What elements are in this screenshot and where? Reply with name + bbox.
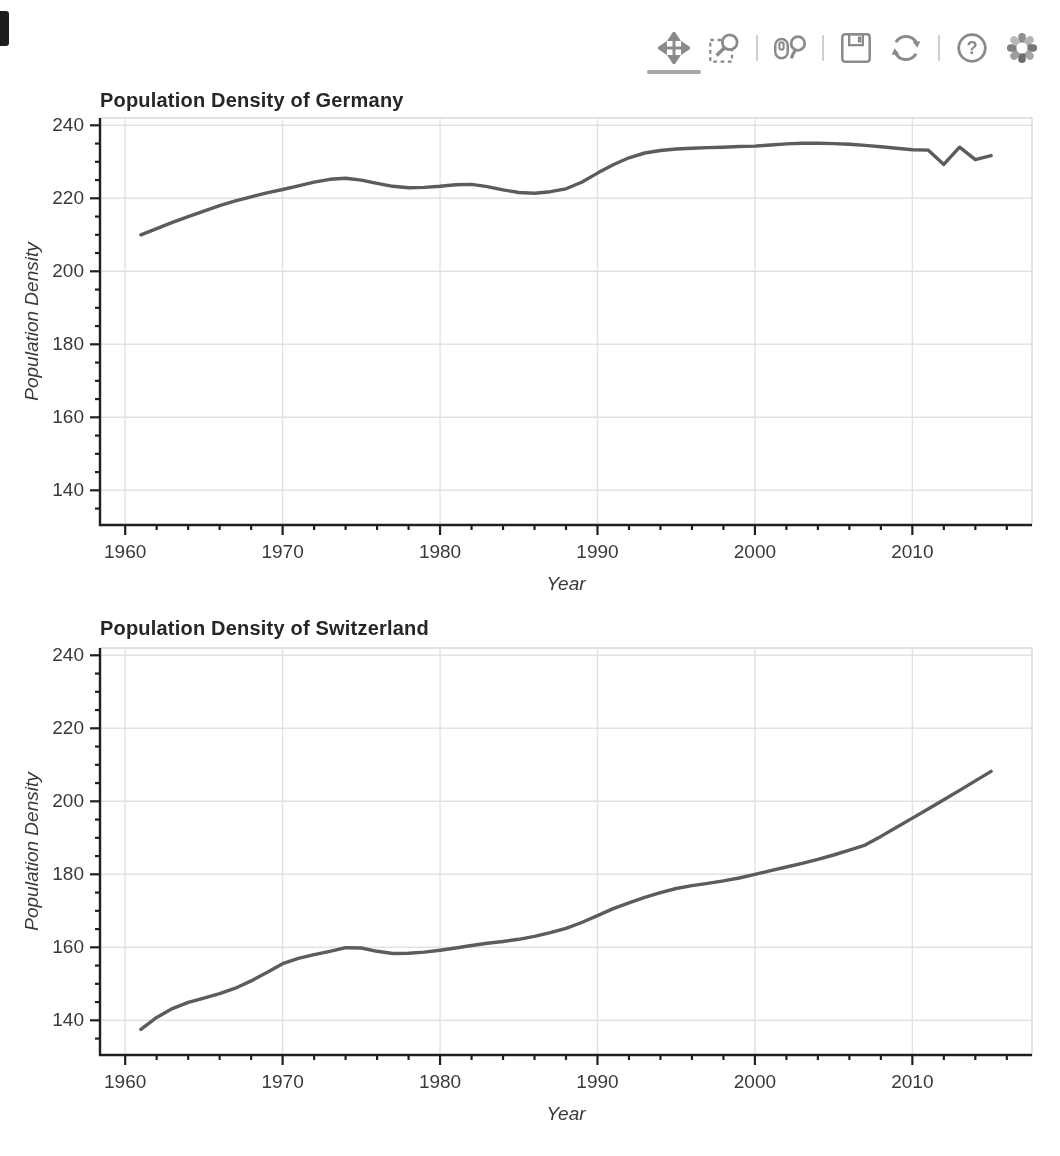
- save-icon: [840, 32, 872, 64]
- help-glyph: ?: [966, 37, 977, 58]
- y-tick-label: 200: [52, 260, 84, 281]
- x-tick-label: 1980: [419, 1071, 461, 1092]
- pan-tool-button[interactable]: [656, 28, 692, 68]
- x-tick-label: 1970: [261, 1071, 303, 1092]
- x-axis-label: Year: [546, 1103, 586, 1124]
- x-tick-label: 1990: [576, 541, 618, 562]
- x-tick-label: 1970: [261, 541, 303, 562]
- y-tick-label: 180: [52, 863, 84, 884]
- y-tick-label: 180: [52, 333, 84, 354]
- toolbar-separator: [822, 35, 824, 61]
- y-tick-label: 200: [52, 790, 84, 811]
- x-tick-label: 1960: [104, 541, 146, 562]
- y-tick-label: 160: [52, 406, 84, 427]
- y-tick-label: 140: [52, 479, 84, 500]
- bokeh-logo-icon: [1005, 31, 1039, 65]
- bokeh-logo[interactable]: [1004, 28, 1040, 68]
- reset-tool-button[interactable]: [888, 28, 924, 68]
- x-tick-label: 2000: [734, 541, 776, 562]
- y-axis-label: Population Density: [21, 771, 42, 931]
- wheel-zoom-icon: [773, 32, 807, 64]
- germany-chart-title: Population Density of Germany: [100, 89, 404, 112]
- y-axis-label: Population Density: [21, 241, 42, 401]
- bokeh-toolbar: ?: [656, 24, 1040, 72]
- x-tick-label: 2010: [891, 541, 933, 562]
- germany-population-density-line: [141, 143, 991, 235]
- switzerland-plot-canvas[interactable]: 1960197019801990200020101401601802002202…: [0, 645, 1060, 1125]
- x-tick-label: 1960: [104, 1071, 146, 1092]
- y-tick-label: 240: [52, 115, 84, 135]
- reset-icon: [890, 32, 922, 64]
- y-tick-label: 220: [52, 187, 84, 208]
- x-tick-label: 2010: [891, 1071, 933, 1092]
- y-tick-label: 240: [52, 645, 84, 665]
- y-tick-label: 140: [52, 1009, 84, 1030]
- y-tick-label: 220: [52, 717, 84, 738]
- wheel-zoom-tool-button[interactable]: [772, 28, 808, 68]
- x-axis-label: Year: [546, 573, 586, 594]
- germany-plot-canvas[interactable]: 1960197019801990200020101401601802002202…: [0, 115, 1060, 595]
- save-tool-button[interactable]: [838, 28, 874, 68]
- x-tick-label: 1990: [576, 1071, 618, 1092]
- bokeh-figure-page: ? Population Density of Germany 196: [0, 0, 1060, 1156]
- pan-icon: [658, 32, 690, 64]
- box-zoom-tool-button[interactable]: [706, 28, 742, 68]
- box-zoom-icon: [708, 32, 740, 64]
- x-tick-label: 1980: [419, 541, 461, 562]
- toolbar-separator: [756, 35, 758, 61]
- y-tick-label: 160: [52, 936, 84, 957]
- help-icon: ?: [956, 32, 988, 64]
- scan-artifact: [0, 11, 9, 46]
- help-tool-button[interactable]: ?: [954, 28, 990, 68]
- toolbar-separator: [938, 35, 940, 61]
- switzerland-chart-title: Population Density of Switzerland: [100, 617, 429, 640]
- x-tick-label: 2000: [734, 1071, 776, 1092]
- switzerland-population-density-line: [141, 771, 991, 1029]
